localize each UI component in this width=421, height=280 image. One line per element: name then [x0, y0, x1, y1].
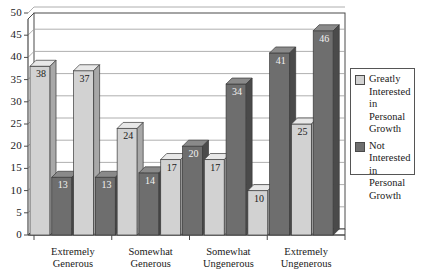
x-axis-category-label: Extremely Generous	[29, 246, 117, 270]
y-axis-tick-label: 45	[0, 28, 22, 40]
legend-item-not-interested: Not Interested in Personal Growth	[354, 140, 411, 203]
bar-value-label: 37	[80, 73, 90, 84]
bar-value-label: 38	[36, 68, 46, 79]
y-axis-tick-label: 35	[0, 73, 22, 85]
bar-value-label: 14	[145, 175, 155, 186]
bar-front	[226, 84, 246, 235]
bar-front	[74, 71, 94, 235]
bar-front	[291, 124, 311, 235]
y-axis-tick-label: 15	[0, 161, 22, 173]
y-axis-tick-label: 30	[0, 95, 22, 107]
y-axis-tick-label: 20	[0, 139, 22, 151]
bar-chart: 3813371324141720173410412546 05101520253…	[0, 0, 421, 280]
bar-value-label: 13	[58, 179, 68, 190]
legend-label-greatly-interested: Greatly Interested in Personal Growth	[369, 73, 411, 136]
bar-side	[333, 25, 339, 235]
bar-front	[30, 66, 50, 235]
bar-front	[183, 146, 203, 235]
bar-value-label: 13	[101, 179, 111, 190]
bar-value-label: 25	[297, 126, 307, 137]
bar-value-label: 17	[167, 162, 177, 173]
y-axis-tick-label: 5	[0, 206, 22, 218]
y-axis-tick-label: 25	[0, 117, 22, 129]
bar-value-label: 24	[123, 130, 133, 141]
legend-swatch-greatly-interested	[355, 75, 365, 85]
bar-front	[117, 128, 137, 235]
y-axis-tick-label: 40	[0, 50, 22, 62]
bar-front	[270, 53, 290, 235]
x-axis-category-label: Somewhat Ungenerous	[184, 246, 272, 270]
x-axis-category-label: Somewhat Generous	[107, 246, 195, 270]
legend-swatch-not-interested	[355, 142, 365, 152]
y-axis-tick-label: 10	[0, 184, 22, 196]
bar-front	[313, 31, 333, 235]
bar-value-label: 34	[232, 86, 242, 97]
bar-value-label: 20	[189, 148, 199, 159]
bar-value-label: 17	[210, 162, 220, 173]
y-axis-tick-label: 50	[0, 6, 22, 18]
legend-item-greatly-interested: Greatly Interested in Personal Growth	[354, 73, 411, 136]
x-axis-category-label: Extremely Ungenerous	[262, 246, 350, 270]
bar-value-label: 10	[254, 193, 264, 204]
bar-value-label: 41	[276, 55, 286, 66]
bar-value-label: 46	[319, 33, 329, 44]
y-axis-tick-label: 0	[0, 228, 22, 240]
legend-label-not-interested: Not Interested in Personal Growth	[369, 140, 411, 203]
chart-legend: Greatly Interested in Personal Growth No…	[350, 68, 415, 175]
